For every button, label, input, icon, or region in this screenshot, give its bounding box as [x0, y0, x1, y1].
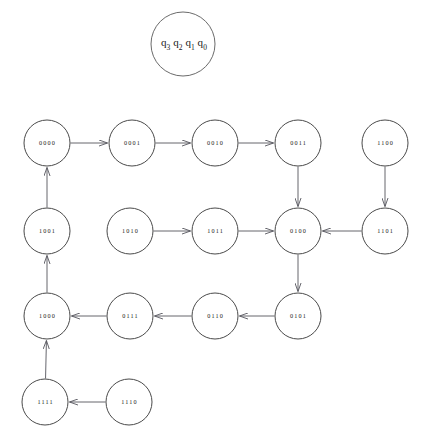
node-label-1011: 1011: [207, 227, 224, 234]
state-node-0111[interactable]: 0111: [107, 293, 153, 339]
state-node-1111[interactable]: 1111: [22, 379, 68, 425]
legend-bit-subscript-0: 3: [167, 43, 171, 52]
node-label-1101: 1101: [377, 227, 394, 234]
state-bit-legend: q3q2q1q0: [151, 12, 215, 76]
node-label-1010: 1010: [122, 227, 139, 234]
state-node-1010[interactable]: 1010: [107, 208, 153, 254]
node-label-0100: 0100: [290, 227, 307, 234]
node-label-0010: 0010: [207, 139, 224, 146]
state-node-0110[interactable]: 0110: [192, 293, 238, 339]
node-label-0111: 0111: [122, 312, 139, 319]
state-node-1101[interactable]: 1101: [362, 208, 408, 254]
node-label-1001: 1001: [39, 227, 56, 234]
state-transition-diagram: 0000000100100011110010011010101101001101…: [0, 0, 422, 436]
nodes-layer: 0000000100100011110010011010101101001101…: [22, 120, 408, 425]
state-node-0101[interactable]: 0101: [275, 293, 321, 339]
node-label-0011: 0011: [290, 139, 307, 146]
legend-bit-subscript-2: 1: [191, 43, 195, 52]
state-node-0001[interactable]: 0001: [109, 120, 155, 166]
graph-canvas: 0000000100100011110010011010101101001101…: [0, 0, 422, 436]
state-node-0000[interactable]: 0000: [24, 120, 70, 166]
edge-1111-to-1000: [46, 340, 47, 378]
edges-layer: [46, 143, 385, 402]
state-node-1100[interactable]: 1100: [362, 120, 408, 166]
node-label-1111: 1111: [37, 398, 53, 405]
node-label-0000: 0000: [39, 139, 56, 146]
legend-bit-subscript-3: 0: [203, 43, 207, 52]
state-node-0100[interactable]: 0100: [275, 208, 321, 254]
state-node-1110[interactable]: 1110: [106, 379, 152, 425]
node-label-0101: 0101: [290, 312, 307, 319]
state-node-1001[interactable]: 1001: [24, 208, 70, 254]
node-label-1100: 1100: [377, 139, 394, 146]
node-label-0001: 0001: [124, 139, 141, 146]
node-label-1000: 1000: [39, 312, 56, 319]
state-node-1000[interactable]: 1000: [24, 293, 70, 339]
legend-bit-subscript-1: 2: [179, 43, 183, 52]
state-node-0010[interactable]: 0010: [192, 120, 238, 166]
node-label-1110: 1110: [121, 398, 138, 405]
state-node-1011[interactable]: 1011: [192, 208, 238, 254]
state-node-0011[interactable]: 0011: [275, 120, 321, 166]
node-label-0110: 0110: [207, 312, 224, 319]
legend-layer: q3q2q1q0: [151, 12, 215, 76]
